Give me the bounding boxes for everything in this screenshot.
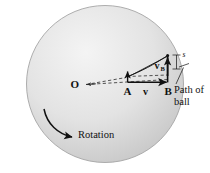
label-rotation: Rotation <box>78 129 115 140</box>
rotating-disk-diagram: O A B v v B s Rotation Path of ball <box>0 0 210 173</box>
label-point-a: A <box>124 85 132 97</box>
label-path-of-ball-line1: Path of <box>174 84 205 95</box>
ball-endpoint-dot <box>166 54 169 57</box>
label-path-of-ball-line2: ball <box>174 96 190 107</box>
figure-root: O A B v v B s Rotation Path of ball <box>0 0 210 173</box>
label-deflection-s: s <box>183 50 186 59</box>
label-velocity-vb: v <box>155 60 160 71</box>
label-point-b: B <box>165 85 173 97</box>
label-center-o: O <box>71 78 80 90</box>
label-velocity-vb-subscript: B <box>161 65 166 72</box>
label-velocity-v: v <box>143 86 148 97</box>
